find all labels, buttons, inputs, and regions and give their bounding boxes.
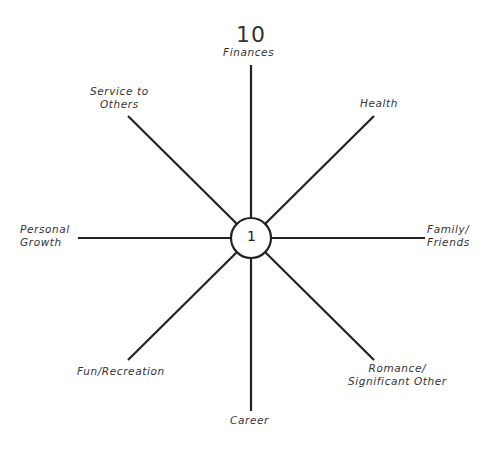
label-career: Career — [230, 414, 269, 427]
center-scale-label: 1 — [247, 228, 256, 244]
spoke-health — [265, 116, 374, 224]
spoke-service-to-others — [128, 116, 237, 224]
label-family-friends: Family/ Friends — [427, 223, 470, 249]
label-fun-recreation: Fun/Recreation — [77, 365, 165, 378]
spoke-fun-recreation — [128, 252, 237, 360]
label-health: Health — [360, 97, 398, 110]
label-finances: Finances — [223, 46, 274, 59]
spoke-romance — [265, 252, 374, 360]
max-scale-label: 10 — [236, 22, 266, 47]
label-romance-significant-other: Romance/ Significant Other — [348, 362, 447, 388]
label-personal-growth: Personal Growth — [20, 223, 70, 249]
label-service-to-others: Service to Others — [90, 85, 149, 111]
